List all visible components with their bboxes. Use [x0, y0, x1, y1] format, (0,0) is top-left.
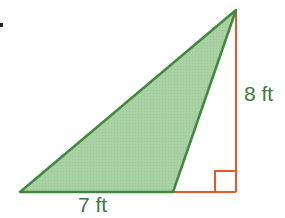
triangle-diagram: [0, 0, 285, 218]
base-label: 7 ft: [78, 193, 107, 217]
height-label: 8 ft: [244, 82, 273, 106]
right-angle-marker: [215, 171, 236, 192]
shaded-triangle: [20, 10, 236, 192]
